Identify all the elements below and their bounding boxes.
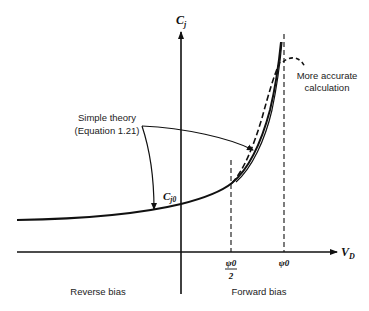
psi-half-numerator: ψ0 (226, 258, 237, 268)
y-axis-label: Cj (176, 13, 187, 29)
reverse-bias-label: Reverse bias (70, 286, 126, 297)
cj0-label: Cj0 (163, 190, 176, 204)
simple-theory-curve (17, 42, 281, 220)
diagram-canvas: Cj VD Cj0 ψ0 2 ψ0 Simple theory (Equatio… (0, 0, 369, 311)
simple-theory-arrow-to-cj0 (142, 126, 154, 209)
forward-bias-label: Forward bias (232, 286, 287, 297)
junction-capacitance-diagram: Cj VD Cj0 ψ0 2 ψ0 Simple theory (Equatio… (0, 0, 369, 311)
psi0-label: ψ0 (279, 258, 290, 268)
simple-theory-arrow-to-curve (142, 126, 253, 150)
x-axis-label: VD (341, 245, 355, 261)
accurate-label-line1: More accurate (297, 70, 358, 81)
accurate-curve (232, 62, 280, 183)
simple-theory-curve-inner (236, 42, 282, 182)
psi-half-denominator: 2 (228, 271, 234, 281)
accurate-pointer (283, 58, 305, 68)
accurate-label-line2: calculation (305, 82, 350, 93)
simple-theory-label-line2: (Equation 1.21) (75, 125, 140, 136)
simple-theory-label-line1: Simple theory (78, 112, 136, 123)
